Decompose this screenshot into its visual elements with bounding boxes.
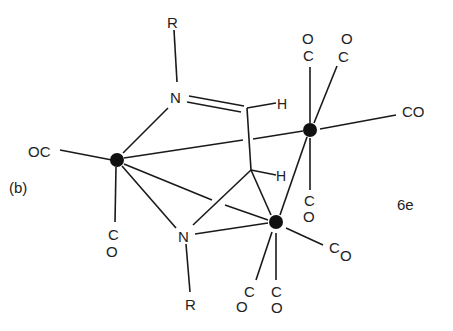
bond-c-fe3 <box>251 170 271 215</box>
bond-fe1-co-left <box>60 150 112 160</box>
n-top-label: N <box>170 89 181 106</box>
fe2-co-up2-o-label: O <box>341 30 353 47</box>
bond-c-c <box>247 108 251 170</box>
bond-fe1-fe3-a <box>124 164 212 200</box>
bond-n-bottom-c <box>193 170 251 225</box>
fe1-co-c-label: C <box>108 226 119 243</box>
fe2-co-right-label: CO <box>402 103 425 120</box>
fe3-co-down2-c-label: C <box>271 283 282 300</box>
bond-fe1-fe2-a <box>124 140 243 158</box>
r-bottom-label: R <box>185 296 196 313</box>
fe1-co-o-label: O <box>106 243 118 260</box>
fe3-co-right-o-label: O <box>340 247 352 264</box>
bond-r-n-top <box>174 30 177 82</box>
compound-label: 6e <box>397 196 414 213</box>
panel-label: (b) <box>9 179 27 196</box>
fe3-co-down2-o-label: O <box>271 299 283 316</box>
bond-n-bottom-fe3 <box>195 223 268 234</box>
fe2-co-up1-c-label: C <box>303 47 314 64</box>
n-bottom-label: N <box>178 228 189 245</box>
bond-fe2-co-right <box>320 115 396 129</box>
bond-n-fe1 <box>123 108 168 153</box>
iron-atom-2 <box>303 123 317 137</box>
oc-left-label: OC <box>28 143 51 160</box>
fe2-co-up2-c-label: C <box>338 48 349 65</box>
trinuclear-iron-carbonyl-diagram: R N H H OC C O (b) N R O C O C CO C O 6e… <box>0 0 453 331</box>
fe2-co-down-c-label: C <box>304 192 315 209</box>
fe2-co-up1-o-label: O <box>302 30 314 47</box>
r-top-label: R <box>167 14 178 31</box>
bond-fe3-co-down1 <box>256 232 272 280</box>
h-top-label: H <box>277 96 287 112</box>
bond-c-h-top <box>247 103 276 108</box>
bond-fe1-n-bottom <box>122 166 176 228</box>
iron-atom-1 <box>110 153 124 167</box>
bond-c-h-mid <box>251 170 276 175</box>
fe3-co-right-c-label: C <box>329 239 340 256</box>
h-mid-label: H <box>276 168 286 184</box>
bond-fe2-co-up2 <box>314 66 337 123</box>
bond-fe1-co-down <box>115 167 116 222</box>
iron-atom-3 <box>269 215 283 229</box>
bond-fe1-fe2-b <box>253 131 303 139</box>
bond-n-r-bottom <box>186 244 190 292</box>
fe3-co-down1-o-label: O <box>236 298 248 315</box>
fe2-co-down-o-label: O <box>303 208 315 225</box>
bond-fe1-fe3-b <box>225 205 268 220</box>
bond-fe3-co-right <box>286 228 323 245</box>
